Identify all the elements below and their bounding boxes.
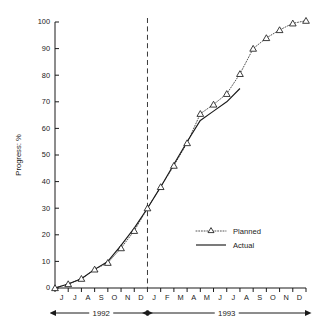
planned-data-point (263, 35, 270, 41)
x-tick-label: S (257, 293, 262, 302)
y-tick-label: 70 (42, 97, 50, 106)
planned-data-point (184, 140, 191, 146)
planned-data-point (303, 17, 310, 23)
x-tick-label: S (99, 293, 104, 302)
legend-planned-triangle-icon (208, 228, 214, 233)
legend-item-planned: Planned (196, 227, 261, 236)
planned-data-point (157, 184, 164, 190)
x-tick-label: J (231, 293, 235, 302)
y-tick-label: 80 (42, 71, 50, 80)
year-span-group: 19921993 (56, 309, 305, 318)
x-tick-label: M (177, 293, 183, 302)
x-tick-label: J (60, 293, 64, 302)
y-axis-title: Progress: % (14, 134, 23, 176)
y-axis: 0102030405060708090100 (38, 17, 59, 292)
x-tick-label: O (112, 293, 118, 302)
x-tick-label: J (218, 293, 222, 302)
x-tick-label: D (138, 293, 143, 302)
y-tick-label: 30 (42, 204, 50, 213)
x-tick-group: JJASONDJFMAMJJASOND (55, 288, 306, 302)
year-span: 1993 (148, 309, 305, 318)
y-axis-title-label: Progress: % (14, 134, 23, 176)
x-tick-label: O (270, 293, 276, 302)
planned-data-point (144, 205, 151, 211)
y-tick-label: 40 (42, 177, 50, 186)
y-tick-label: 50 (42, 150, 50, 159)
x-axis: JJASONDJFMAMJJASOND (55, 288, 306, 302)
legend-planned-label: Planned (233, 227, 261, 236)
x-tick-label: A (86, 293, 91, 302)
planned-data-point (276, 27, 283, 33)
x-tick-label: F (165, 293, 170, 302)
y-tick-label: 0 (46, 283, 50, 292)
x-tick-label: A (191, 293, 196, 302)
year-span-label: 1993 (218, 309, 235, 318)
y-tick-label: 60 (42, 124, 50, 133)
x-tick-label: N (125, 293, 130, 302)
planned-data-point (171, 162, 178, 168)
year-span: 1992 (56, 309, 146, 318)
y-tick-label: 90 (42, 44, 50, 53)
year-span-label: 1992 (93, 309, 110, 318)
series-group (52, 17, 310, 290)
planned-data-point (237, 71, 244, 77)
planned-data-point (223, 91, 230, 97)
x-tick-label: D (297, 293, 302, 302)
chart-svg: Progress: % 0102030405060708090100 JJASO… (0, 0, 318, 335)
y-tick-group: 0102030405060708090100 (38, 17, 59, 292)
legend-actual-label: Actual (233, 241, 254, 250)
x-tick-label: J (73, 293, 77, 302)
y-tick-label: 20 (42, 230, 50, 239)
y-tick-label: 100 (38, 17, 50, 26)
x-tick-label: M (204, 293, 210, 302)
planned-data-point (91, 266, 98, 272)
legend: Planned Actual (196, 227, 261, 250)
legend-item-actual: Actual (196, 241, 254, 250)
x-tick-label: A (244, 293, 249, 302)
x-tick-label: J (152, 293, 156, 302)
planned-line (55, 21, 306, 288)
progress-chart: Progress: % 0102030405060708090100 JJASO… (0, 0, 318, 335)
planned-data-point (65, 281, 72, 287)
x-tick-label: N (284, 293, 289, 302)
planned-data-point (197, 111, 204, 117)
y-tick-label: 10 (42, 257, 50, 266)
